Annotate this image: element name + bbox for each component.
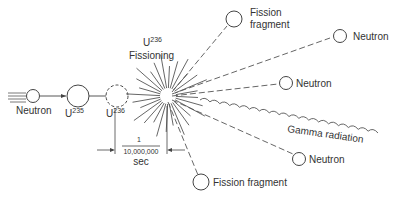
svg-text:U236: U236 <box>106 107 125 119</box>
neutron-3-label: Neutron <box>309 154 345 165</box>
svg-text:U236: U236 <box>143 36 162 48</box>
fissioning-sup: 236 <box>150 36 162 43</box>
fragment-top-label-1: Fission <box>250 7 282 18</box>
motion-lines <box>8 93 26 102</box>
fission-burst <box>126 55 207 137</box>
neutron-1-label: Neutron <box>353 31 389 42</box>
u235-label: U <box>65 108 72 119</box>
fragment-bottom-label: Fission fragment <box>213 177 287 188</box>
neutron-3-circle <box>293 153 306 166</box>
svg-text:U235: U235 <box>65 107 84 119</box>
incoming-neutron-circle <box>27 90 40 103</box>
fission-fragment-top-circle <box>226 11 242 27</box>
fission-fragment-bottom-circle <box>193 174 209 190</box>
fragment-top-label-2: fragment <box>250 19 290 30</box>
gamma-label: Gamma radiation <box>287 123 364 145</box>
time-unit: sec <box>133 156 149 167</box>
neutron-2-circle <box>280 77 293 90</box>
arrow-icon <box>61 94 66 98</box>
trajectories <box>168 26 330 175</box>
fissioning-label: Fissioning <box>129 50 174 61</box>
incoming-neutron-label: Neutron <box>16 105 52 116</box>
neutron-2-label: Neutron <box>296 78 332 89</box>
time-denominator: 10,000,000 <box>123 148 158 155</box>
u236-circle <box>106 85 128 107</box>
fissioning-u-label: U <box>143 37 150 48</box>
u236-sup: 236 <box>113 107 125 114</box>
time-numerator: 1 <box>137 136 141 143</box>
u236-label: U <box>106 108 113 119</box>
u235-circle <box>67 85 89 107</box>
u235-sup: 235 <box>72 107 84 114</box>
neutron-1-circle <box>334 30 347 43</box>
fission-diagram: Neutron U235 U236 U236 Fissioning Fissio… <box>0 0 393 199</box>
